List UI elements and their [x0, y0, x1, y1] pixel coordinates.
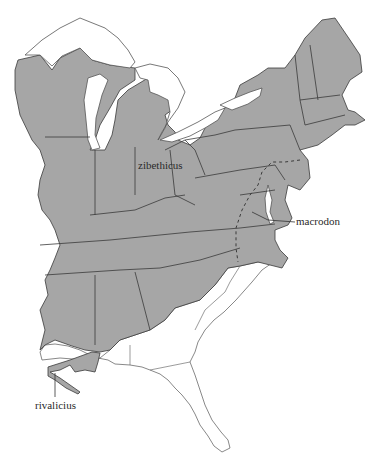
range-map: zibethicus macrodon rivalicius	[0, 0, 377, 465]
label-macrodon: macrodon	[296, 215, 340, 227]
label-rivalicius: rivalicius	[35, 399, 76, 411]
label-zibethicus: zibethicus	[138, 159, 183, 171]
range-zibethicus	[15, 18, 365, 352]
